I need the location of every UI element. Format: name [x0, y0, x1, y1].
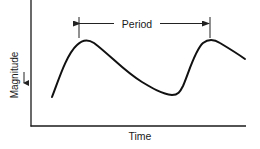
period-label: Period: [122, 18, 153, 30]
waveform-curve: [52, 40, 245, 97]
y-axis-label: Magnitude: [9, 51, 20, 98]
waveform-diagram: Period Magnitude Time: [0, 0, 260, 149]
x-axis-label: Time: [129, 130, 152, 142]
